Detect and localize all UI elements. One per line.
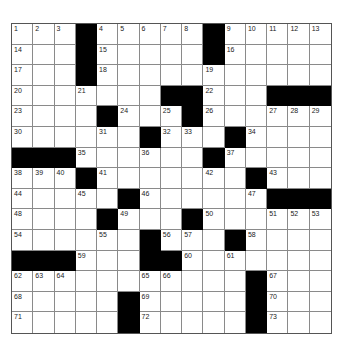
grid-cell[interactable] [33,312,54,333]
grid-cell[interactable] [225,209,246,230]
grid-cell[interactable] [76,127,97,148]
grid-cell[interactable] [118,127,139,148]
grid-cell[interactable]: 54 [12,230,33,251]
grid-cell[interactable]: 2 [33,24,54,45]
grid-cell[interactable] [140,65,161,86]
grid-cell[interactable] [203,230,224,251]
grid-cell[interactable] [203,251,224,272]
grid-cell[interactable] [267,230,288,251]
grid-cell[interactable] [118,148,139,169]
grid-cell[interactable] [76,271,97,292]
grid-cell[interactable]: 65 [140,271,161,292]
grid-cell[interactable] [288,45,309,66]
grid-cell[interactable]: 35 [76,148,97,169]
grid-cell[interactable] [225,86,246,107]
grid-cell[interactable] [118,230,139,251]
grid-cell[interactable] [246,148,267,169]
grid-cell[interactable] [161,148,182,169]
grid-cell[interactable] [55,312,76,333]
grid-cell[interactable] [140,106,161,127]
grid-cell[interactable]: 17 [12,65,33,86]
grid-cell[interactable] [203,271,224,292]
grid-cell[interactable]: 46 [140,189,161,210]
grid-cell[interactable] [182,292,203,313]
grid-cell[interactable] [310,230,331,251]
grid-cell[interactable] [182,271,203,292]
grid-cell[interactable]: 67 [267,271,288,292]
grid-cell[interactable] [310,45,331,66]
grid-cell[interactable]: 49 [118,209,139,230]
grid-cell[interactable] [310,251,331,272]
grid-cell[interactable]: 34 [246,127,267,148]
grid-cell[interactable] [246,45,267,66]
grid-cell[interactable]: 25 [161,106,182,127]
grid-cell[interactable]: 39 [33,168,54,189]
grid-cell[interactable]: 32 [161,127,182,148]
grid-cell[interactable] [182,312,203,333]
grid-cell[interactable] [182,65,203,86]
grid-cell[interactable] [267,148,288,169]
grid-cell[interactable]: 1 [12,24,33,45]
grid-cell[interactable] [33,292,54,313]
grid-cell[interactable]: 12 [288,24,309,45]
grid-cell[interactable] [55,65,76,86]
grid-cell[interactable] [118,86,139,107]
grid-cell[interactable]: 41 [97,168,118,189]
grid-cell[interactable] [118,251,139,272]
grid-cell[interactable] [118,168,139,189]
grid-cell[interactable]: 15 [97,45,118,66]
grid-cell[interactable] [161,209,182,230]
grid-cell[interactable]: 47 [246,189,267,210]
grid-cell[interactable]: 70 [267,292,288,313]
grid-cell[interactable]: 59 [76,251,97,272]
grid-cell[interactable] [97,292,118,313]
grid-cell[interactable]: 13 [310,24,331,45]
grid-cell[interactable]: 3 [55,24,76,45]
grid-cell[interactable]: 30 [12,127,33,148]
grid-cell[interactable] [225,106,246,127]
grid-cell[interactable] [118,65,139,86]
grid-cell[interactable]: 22 [203,86,224,107]
grid-cell[interactable]: 51 [267,209,288,230]
grid-cell[interactable] [55,209,76,230]
grid-cell[interactable]: 62 [12,271,33,292]
grid-cell[interactable] [97,189,118,210]
grid-cell[interactable]: 50 [203,209,224,230]
grid-cell[interactable] [97,148,118,169]
grid-cell[interactable] [267,65,288,86]
grid-cell[interactable]: 56 [161,230,182,251]
grid-cell[interactable] [246,106,267,127]
grid-cell[interactable] [288,251,309,272]
grid-cell[interactable] [310,271,331,292]
grid-cell[interactable]: 7 [161,24,182,45]
grid-cell[interactable]: 26 [203,106,224,127]
grid-cell[interactable] [225,189,246,210]
grid-cell[interactable] [310,292,331,313]
grid-cell[interactable] [118,271,139,292]
grid-cell[interactable] [55,106,76,127]
grid-cell[interactable] [310,312,331,333]
grid-cell[interactable] [288,271,309,292]
grid-cell[interactable] [55,292,76,313]
grid-cell[interactable] [203,292,224,313]
grid-cell[interactable]: 57 [182,230,203,251]
grid-cell[interactable] [203,312,224,333]
grid-cell[interactable] [310,65,331,86]
grid-cell[interactable] [55,86,76,107]
grid-cell[interactable]: 31 [97,127,118,148]
grid-cell[interactable]: 43 [267,168,288,189]
grid-cell[interactable] [267,127,288,148]
grid-cell[interactable]: 8 [182,24,203,45]
grid-cell[interactable]: 73 [267,312,288,333]
grid-cell[interactable] [288,230,309,251]
grid-cell[interactable] [97,312,118,333]
grid-cell[interactable]: 14 [12,45,33,66]
grid-cell[interactable]: 48 [12,209,33,230]
grid-cell[interactable] [161,189,182,210]
grid-cell[interactable]: 28 [288,106,309,127]
grid-cell[interactable]: 33 [182,127,203,148]
grid-cell[interactable] [33,189,54,210]
grid-cell[interactable]: 44 [12,189,33,210]
grid-cell[interactable]: 27 [267,106,288,127]
grid-cell[interactable]: 11 [267,24,288,45]
